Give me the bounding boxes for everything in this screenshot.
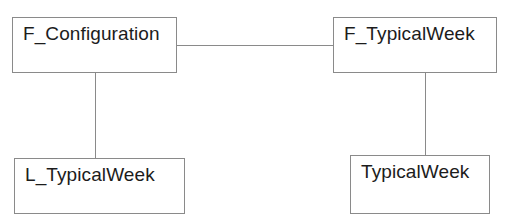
node-f-configuration-label: F_Configuration (23, 22, 160, 46)
edge-f-typicalweek-to-typicalweek (425, 73, 426, 155)
node-f-configuration[interactable]: F_Configuration (12, 17, 177, 73)
node-f-typicalweek-label: F_TypicalWeek (344, 22, 475, 46)
node-typicalweek-label: TypicalWeek (361, 160, 469, 184)
node-f-typicalweek[interactable]: F_TypicalWeek (333, 17, 497, 73)
class-diagram-canvas: F_Configuration F_TypicalWeek L_TypicalW… (0, 0, 506, 220)
edge-configuration-to-l-typicalweek (95, 73, 96, 158)
node-l-typicalweek[interactable]: L_TypicalWeek (14, 158, 185, 214)
edge-configuration-to-typicalweek (177, 45, 333, 46)
node-l-typicalweek-label: L_TypicalWeek (25, 163, 155, 187)
node-typicalweek[interactable]: TypicalWeek (350, 155, 490, 214)
